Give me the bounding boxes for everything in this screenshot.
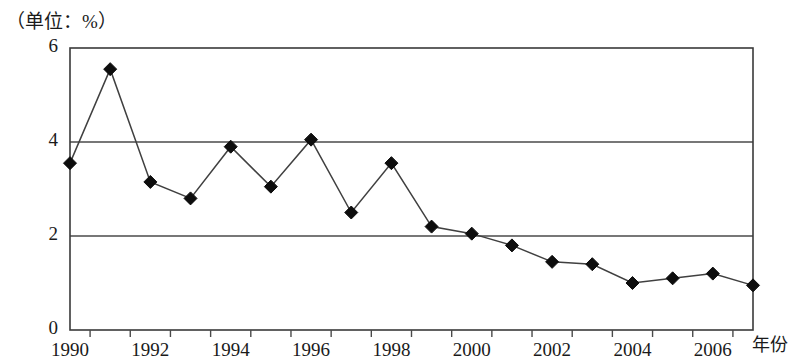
data-point-marker	[144, 175, 157, 188]
data-point-marker	[64, 157, 77, 170]
data-point-marker	[505, 239, 518, 252]
line-chart: （单位：%） 0246 1990199219941996199820002002…	[0, 0, 790, 360]
x-axis-tick-label: 2002	[517, 339, 587, 360]
x-axis-tick-label: 1996	[276, 339, 346, 360]
data-point-marker	[104, 63, 117, 76]
plot-frame	[70, 48, 753, 330]
x-axis-tick-label: 2004	[597, 339, 667, 360]
plot-canvas	[0, 0, 790, 360]
y-axis-tick-label: 2	[18, 223, 58, 245]
gridlines	[70, 142, 753, 236]
x-axis-tick-label: 1998	[356, 339, 426, 360]
data-series	[70, 69, 753, 285]
x-axis-tick-label: 2006	[678, 339, 748, 360]
series-line	[70, 69, 753, 285]
x-axis-tick-label: 1992	[115, 339, 185, 360]
x-axis-caption: 年份	[752, 330, 788, 356]
data-point-markers	[64, 63, 760, 292]
x-axis-tick-label: 1990	[35, 339, 105, 360]
plot-border	[70, 48, 753, 330]
data-point-marker	[586, 258, 599, 271]
y-axis-tick-label: 0	[18, 317, 58, 339]
data-point-marker	[706, 267, 719, 280]
x-axis-tick-label: 1994	[196, 339, 266, 360]
data-point-marker	[546, 255, 559, 268]
y-axis-tick-label: 4	[18, 129, 58, 151]
data-point-marker	[626, 277, 639, 290]
data-point-marker	[747, 279, 760, 292]
data-point-marker	[184, 192, 197, 205]
x-axis-ticks	[90, 330, 733, 337]
data-point-marker	[465, 227, 478, 240]
y-axis-tick-label: 6	[18, 35, 58, 57]
data-point-marker	[425, 220, 438, 233]
x-axis-tick-label: 2000	[437, 339, 507, 360]
data-point-marker	[666, 272, 679, 285]
